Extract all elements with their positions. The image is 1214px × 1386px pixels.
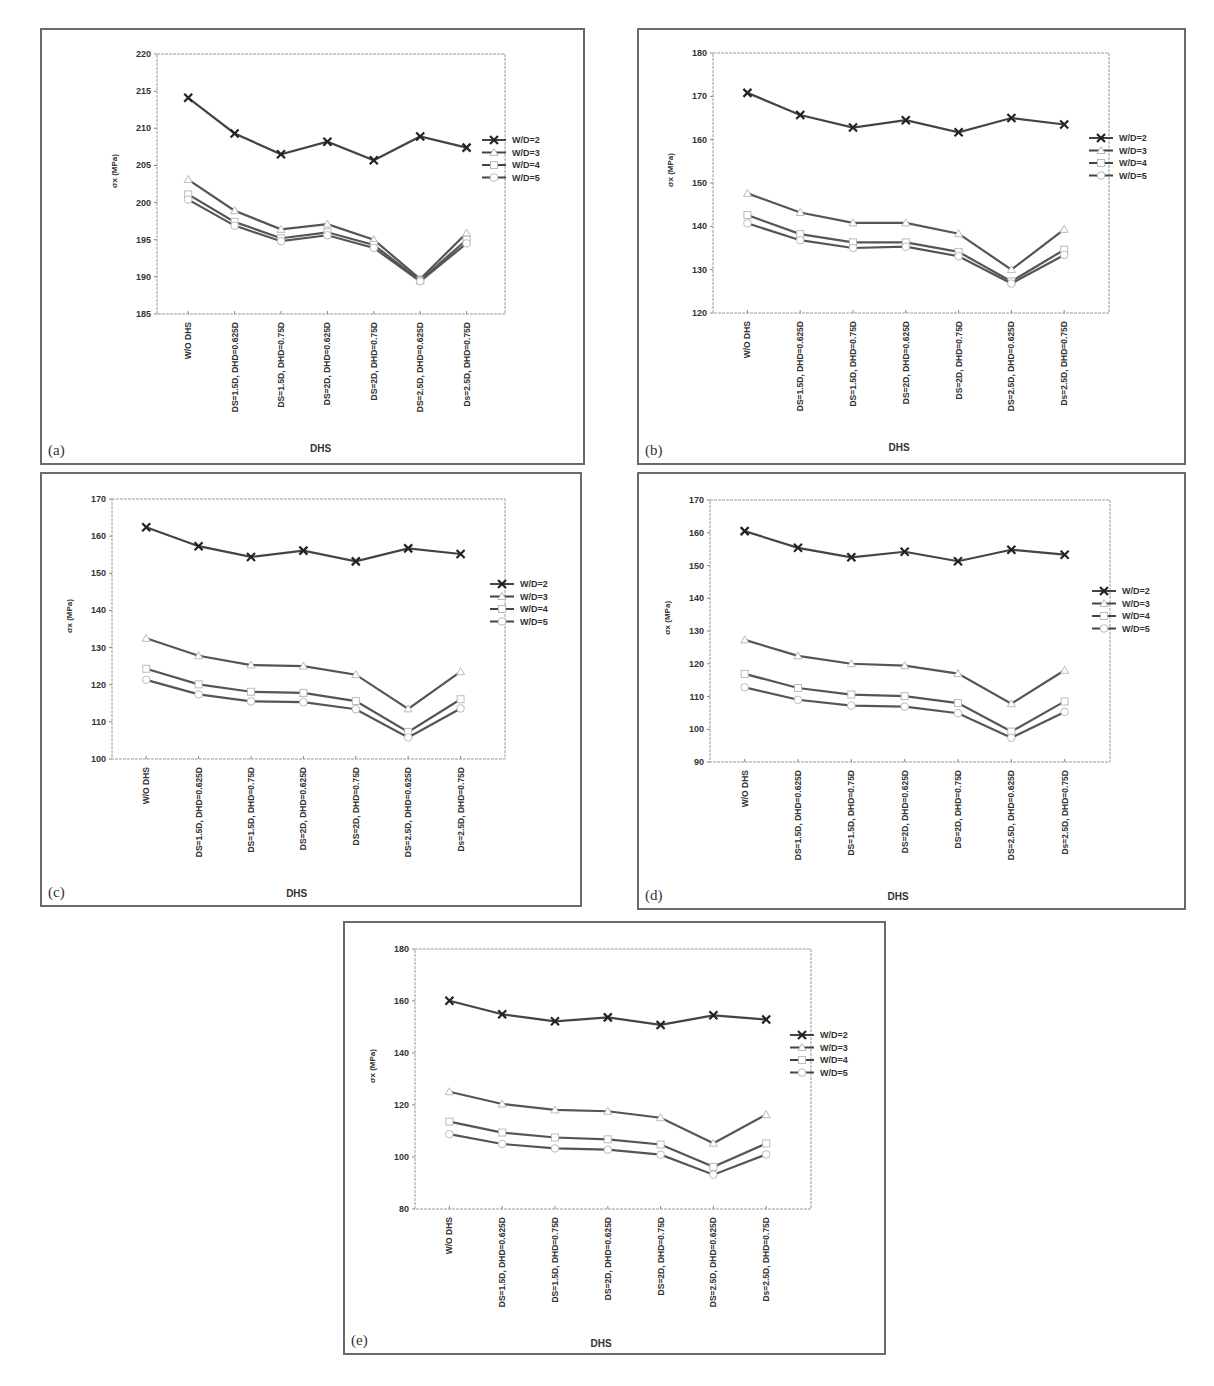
y-tick-label: 100 <box>91 754 106 764</box>
data-point-marker <box>848 702 856 710</box>
x-tick-label: DS=1.5D, DHD=0.75D <box>848 321 858 407</box>
x-tick-label: W/O DHS <box>183 322 193 360</box>
plot-area <box>415 949 811 1209</box>
data-point-marker <box>1061 698 1068 705</box>
legend: W/D=2W/D=3W/D=4W/D=5 <box>490 579 548 627</box>
x-tick-label: DS=1.5D, DHD=0.625D <box>793 770 803 860</box>
y-tick-label: 210 <box>136 123 151 133</box>
x-tick-label: DS=1.5D, DHD=0.625D <box>230 322 240 412</box>
data-point-marker <box>463 229 471 236</box>
data-point-marker <box>1008 280 1016 288</box>
y-tick-label: 120 <box>394 1100 409 1110</box>
data-point-marker <box>445 1088 453 1095</box>
data-point-marker <box>710 1171 718 1179</box>
x-tick-label: DS=1.5D, DHD=0.625D <box>795 321 805 411</box>
data-point-marker <box>142 634 150 641</box>
x-tick-label: W/O DHS <box>141 767 151 805</box>
data-point-marker <box>1060 225 1068 232</box>
data-point-marker <box>300 689 307 696</box>
y-tick-label: 160 <box>689 528 704 538</box>
data-point-marker <box>195 681 202 688</box>
x-tick-label: W/O DHS <box>742 321 752 359</box>
y-tick-label: 150 <box>692 178 707 188</box>
y-tick-label: 170 <box>689 495 704 505</box>
series-w-d-2 <box>142 523 464 565</box>
data-point-marker <box>901 693 908 700</box>
legend-item-label: W/D=2 <box>820 1030 848 1040</box>
legend-item-label: W/D=2 <box>520 579 548 589</box>
y-tick-label: 190 <box>136 272 151 282</box>
data-point-marker <box>955 252 963 260</box>
x-tick-label: Ds=2.5D, DHD=0.75D <box>462 322 472 407</box>
data-point-marker <box>1061 708 1069 716</box>
legend-item-label: W/D=5 <box>1119 171 1147 181</box>
legend-item-label: W/D=4 <box>1119 158 1147 168</box>
chart-panel-b: 120130140150160170180σx (MPa)W/O DHSDS=1… <box>637 28 1186 465</box>
data-point-marker <box>1008 734 1016 742</box>
legend-marker-icon <box>799 1057 806 1064</box>
series-w-d-4 <box>446 1118 770 1170</box>
legend-item-label: W/D=4 <box>1122 611 1150 621</box>
data-point-marker <box>551 1145 559 1153</box>
y-tick-label: 215 <box>136 86 151 96</box>
data-point-marker <box>741 670 748 677</box>
legend-item-label: W/D=3 <box>512 148 540 158</box>
data-point-marker <box>143 665 150 672</box>
legend-item-label: W/D=2 <box>512 135 540 145</box>
data-point-marker <box>499 1129 506 1136</box>
y-tick-label: 220 <box>136 49 151 59</box>
x-tick-label: DS=2.5D, DHD=0.625D <box>1006 321 1016 411</box>
data-point-marker <box>902 243 910 251</box>
chart-panel-d: 90100110120130140150160170σx (MPa)W/O DH… <box>637 472 1186 910</box>
data-point-marker <box>744 212 751 219</box>
data-point-marker <box>248 688 255 695</box>
x-tick-label: DS=2D, DHD=0.75D <box>351 767 361 845</box>
x-tick-label: DS=2.5D, DHD=0.625D <box>708 1217 718 1307</box>
data-point-marker <box>741 636 749 643</box>
panel-label-b: (b) <box>645 442 663 459</box>
data-point-marker <box>416 278 424 286</box>
data-point-marker <box>710 1163 717 1170</box>
data-point-marker <box>954 709 962 717</box>
data-point-marker <box>195 691 203 699</box>
data-point-marker <box>231 129 239 137</box>
data-point-marker <box>300 698 308 706</box>
y-axis-label: σx (MPa) <box>666 153 675 187</box>
chart-panel-e: 80100120140160180σx (MPa)W/O DHSDS=1.5D,… <box>343 921 886 1355</box>
legend: W/D=2W/D=3W/D=4W/D=5 <box>482 135 540 183</box>
line-chart: 100110120130140150160170σx (MPa)W/O DHSD… <box>42 474 580 905</box>
x-tick-label: DS=2D, DHD=0.75D <box>656 1217 666 1295</box>
x-tick-label: DS=2D, DHD=0.625D <box>603 1217 613 1300</box>
y-tick-label: 150 <box>689 561 704 571</box>
legend-item-label: W/D=5 <box>820 1068 848 1078</box>
panel-label-e: (e) <box>351 1332 368 1349</box>
legend-item-label: W/D=5 <box>1122 624 1150 634</box>
series-w-d-2 <box>743 89 1068 136</box>
legend-marker-icon <box>1098 160 1105 167</box>
panel-label-d: (d) <box>645 887 663 904</box>
x-tick-label: DS=1.5D, DHD=0.75D <box>846 770 856 856</box>
x-tick-label: DS=1.5D, DHD=0.75D <box>276 322 286 408</box>
y-axis-label: σx (MPa) <box>663 601 672 635</box>
x-tick-label: DS=2D, DHD=0.625D <box>298 767 308 850</box>
data-point-marker <box>744 220 752 228</box>
data-point-marker <box>370 244 378 252</box>
panel-label-c: (c) <box>48 884 65 901</box>
x-tick-label: DS=1.5D, DHD=0.625D <box>497 1217 507 1307</box>
series-w-d-2 <box>445 997 770 1029</box>
legend-item-label: W/D=2 <box>1119 133 1147 143</box>
y-tick-label: 100 <box>689 724 704 734</box>
plot-area <box>713 53 1109 313</box>
data-point-marker <box>277 237 285 245</box>
data-point-marker <box>955 700 962 707</box>
y-tick-label: 110 <box>91 717 106 727</box>
legend-marker-icon <box>491 162 498 169</box>
data-point-marker <box>848 691 855 698</box>
x-tick-label: DS=2.5D, DHD=0.625D <box>1006 770 1016 860</box>
legend-marker-icon <box>490 174 498 182</box>
x-tick-label: DS=1.5D, DHD=0.625D <box>194 767 204 857</box>
legend-marker-icon <box>1097 172 1105 180</box>
legend-item-label: W/D=3 <box>1119 146 1147 156</box>
legend-item-label: W/D=4 <box>820 1055 848 1065</box>
y-tick-label: 150 <box>91 568 106 578</box>
